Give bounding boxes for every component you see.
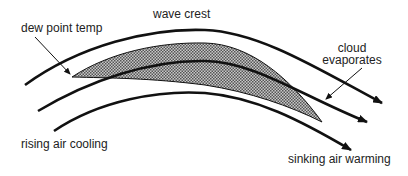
wave-crest-label: wave crest [153, 8, 210, 21]
rising-air-label: rising air cooling [21, 138, 108, 151]
dew-point-label: dew point temp [21, 22, 102, 35]
cloud-evaporates-pointer [326, 68, 362, 99]
lenticular-cloud [72, 43, 322, 122]
cloud-evaporates-label-line2: evaporates [322, 54, 382, 67]
sinking-air-label: sinking air warming [288, 153, 391, 166]
